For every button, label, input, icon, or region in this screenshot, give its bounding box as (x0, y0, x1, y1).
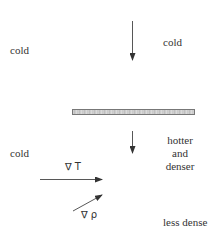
arrows-layer (0, 0, 218, 236)
arrow-grad-rho-icon (73, 195, 102, 211)
diagram-canvas: cold cold cold hotter and denser less de… (0, 0, 218, 236)
